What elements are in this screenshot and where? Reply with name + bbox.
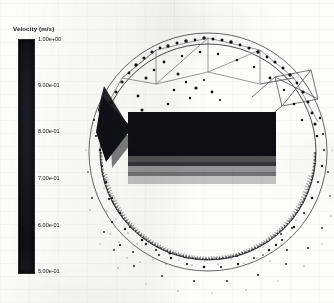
colorbar-tick-label: 5.00e-01	[38, 268, 60, 274]
mesh-overlay	[98, 38, 318, 122]
dense-particle-block	[128, 112, 276, 184]
particle-scatter-plot	[82, 0, 334, 303]
colorbar-tick-label: 6.00e-01	[38, 222, 60, 228]
colorbar-tick-label: 9.00e-01	[38, 82, 60, 88]
particle-velocity-figure: Velocity (m/s) 1.00e+00 9.00e-01 8.00e-0…	[0, 0, 334, 303]
colorbar-gradient	[18, 39, 35, 274]
colorbar-tick-label: 8.00e-01	[38, 128, 60, 134]
colorbar-tick-label: 1.00e+00	[38, 36, 61, 42]
plot-canvas	[82, 0, 334, 303]
colorbar-title: Velocity (m/s)	[13, 25, 54, 32]
colorbar-tick-label: 7.00e-01	[38, 175, 60, 181]
